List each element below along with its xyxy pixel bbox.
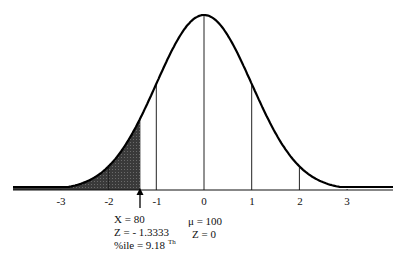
z-value-label: Z = - 1.3333 xyxy=(114,226,176,239)
tick-label-neg3: -3 xyxy=(56,196,65,207)
percentile-value: %ile = 9.18 xyxy=(114,239,168,251)
shaded-tail-region xyxy=(13,118,140,190)
tick-label-3: 3 xyxy=(344,196,350,207)
x-value-annotation: X = 80 Z = - 1.3333 %ile = 9.18 Th xyxy=(114,213,176,252)
x-value-label: X = 80 xyxy=(114,213,176,226)
tick-label-neg2: -2 xyxy=(104,196,113,207)
mean-annotation: μ = 100 Z = 0 xyxy=(188,215,222,241)
normal-distribution-diagram: -3 -2 -1 0 1 2 3 X = 80 Z = - 1.3333 %il… xyxy=(0,0,402,258)
bell-curve xyxy=(13,15,393,187)
tick-label-0: 0 xyxy=(201,196,207,207)
tick-label-neg1: -1 xyxy=(152,196,161,207)
z-score-lines xyxy=(61,16,347,190)
mean-label: μ = 100 xyxy=(188,215,222,228)
tick-label-2: 2 xyxy=(297,196,303,207)
mean-z-label: Z = 0 xyxy=(188,228,222,241)
tick-label-1: 1 xyxy=(249,196,255,207)
percentile-label: %ile = 9.18 Th xyxy=(114,239,176,252)
percentile-suffix: Th xyxy=(168,238,176,246)
